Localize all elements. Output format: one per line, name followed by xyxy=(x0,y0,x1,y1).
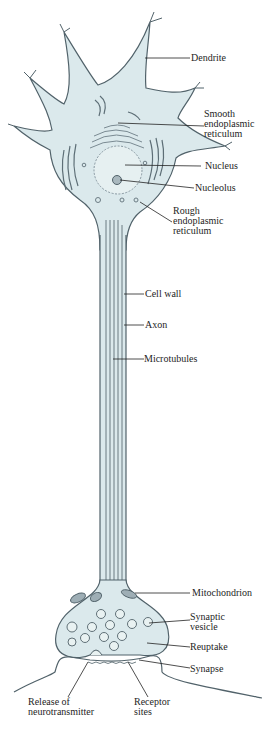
label-cell-wall: Cell wall xyxy=(145,289,181,299)
label-axon: Axon xyxy=(145,320,167,330)
postsynaptic-membrane xyxy=(14,656,262,698)
label-synaptic-vesicle: Synaptic vesicle xyxy=(190,612,225,632)
label-synapse: Synapse xyxy=(190,664,223,674)
label-rough-er: Rough endoplasmic reticulum xyxy=(173,206,224,236)
label-receptor-sites: Receptor sites xyxy=(134,697,170,717)
nucleus xyxy=(94,146,142,194)
label-mitochondrion: Mitochondrion xyxy=(192,588,252,598)
label-microtubules: Microtubules xyxy=(144,354,197,364)
label-dendrite: Dendrite xyxy=(191,53,226,63)
label-release-of-neurotransmitter: Release of neurotransmitter xyxy=(28,697,94,717)
label-nucleolus: Nucleolus xyxy=(195,183,236,193)
label-smooth-er: Smooth endoplasmic reticulum xyxy=(204,109,255,139)
label-nucleus: Nucleus xyxy=(205,161,238,171)
label-reuptake: Reuptake xyxy=(190,642,228,652)
